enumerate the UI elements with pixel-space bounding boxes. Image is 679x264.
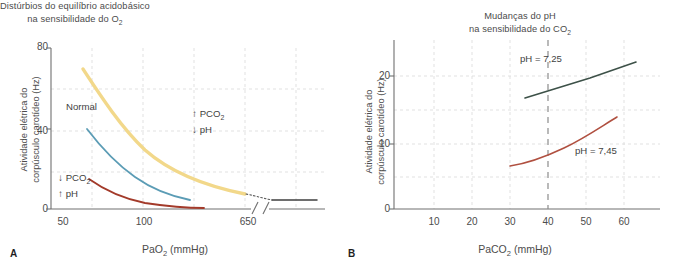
up-arrow-icon: ↑ bbox=[192, 108, 197, 119]
panel-b: Mudanças do pH na sensibilidade do CO2 A… bbox=[340, 0, 679, 264]
panel-b-plot bbox=[340, 0, 679, 264]
panel-a-letter: A bbox=[10, 248, 17, 259]
panel-a-axis-break-icon bbox=[252, 202, 269, 214]
panel-b-curve-ph-725 bbox=[525, 62, 636, 98]
panel-b-annotation-ph-725: pH = 7,25 bbox=[520, 53, 562, 65]
down-arrow-icon: ↓ bbox=[192, 124, 197, 135]
panel-a-tickmarks bbox=[46, 48, 51, 209]
panel-a-annotation-low-pco2: ↓ PCO2 ↑ pH bbox=[58, 172, 90, 200]
up-arrow-icon: ↑ bbox=[58, 188, 63, 199]
down-arrow-icon: ↓ bbox=[58, 172, 63, 183]
panel-a-x-axis-title: PaO2 (mmHg) bbox=[60, 243, 290, 258]
panel-b-curve-ph-745 bbox=[510, 117, 617, 166]
panel-a-gridlines bbox=[51, 48, 325, 209]
panel-b-letter: B bbox=[348, 248, 355, 259]
panel-a: Distúrbios do equilíbrio acidobásico na … bbox=[0, 0, 340, 264]
subscript: 2 bbox=[86, 178, 90, 185]
panel-a-plot bbox=[0, 0, 340, 264]
figure-container: Distúrbios do equilíbrio acidobásico na … bbox=[0, 0, 679, 264]
panel-a-curve-break-bridge bbox=[246, 194, 272, 200]
panel-b-gridlines bbox=[394, 40, 660, 209]
panel-a-annotation-normal: Normal bbox=[66, 101, 97, 113]
panel-b-annotation-ph-745: pH = 7,45 bbox=[575, 145, 617, 157]
panel-b-tickmarks bbox=[389, 76, 394, 209]
panel-a-curve-normal bbox=[87, 129, 190, 200]
panel-b-x-axis-title: PaCO2 (mmHg) bbox=[395, 243, 635, 258]
panel-a-annotation-high-pco2: ↑ PCO2 ↓ pH bbox=[192, 108, 224, 136]
subscript: 2 bbox=[220, 114, 224, 121]
